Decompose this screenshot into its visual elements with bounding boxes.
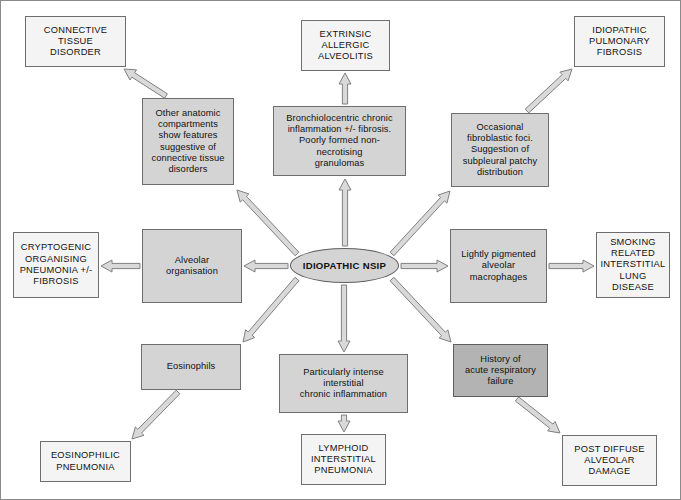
feature-node-acute-respiratory-failure[interactable]: History of acute respiratory failure (453, 344, 548, 397)
outcome-node-smoking-related-interstitial-lung-disease[interactable]: SMOKING RELATED INTERSTITIAL LUNG DISEAS… (596, 232, 670, 298)
feature-node-fibroblastic-foci[interactable]: Occasional fibroblastic foci. Suggestion… (451, 113, 549, 187)
arrow-bronchiolocentric-to-eaa (339, 73, 351, 104)
arrow-hub-to-intense-inflammation (338, 285, 350, 352)
feature-node-bronchiolocentric-inflammation[interactable]: Bronchiolocentric chronic inflammation +… (273, 106, 406, 176)
acute-respiratory-failure-label: History of acute respiratory failure (462, 354, 539, 388)
outcome-node-connective-tissue-disorder[interactable]: CONNECTIVE TISSUE DISORDER (25, 16, 126, 67)
hub-node-idiopathic-nsip[interactable]: IDIOPATHIC NSIP (290, 248, 399, 283)
arrow-hub-to-eosinophils (243, 277, 299, 342)
arrow-fibroblastic-foci-to-ipf (525, 69, 572, 113)
feature-node-intense-interstitial-inflammation[interactable]: Particularly intense interstitial chroni… (279, 354, 408, 413)
arrow-hub-to-fibroblastic-foci (390, 191, 450, 256)
outcome-node-post-diffuse-alveolar-damage[interactable]: POST DIFFUSE ALVEOLAR DAMAGE (562, 435, 657, 486)
lymphoid-interstitial-pneumonia-label: LYMPHOID INTERSTITIAL PNEUMONIA (308, 443, 379, 477)
outcome-node-extrinsic-allergic-alveolitis[interactable]: EXTRINSIC ALLERGIC ALVEOLITIS (301, 20, 390, 71)
feature-node-eosinophils[interactable]: Eosinophils (141, 344, 241, 390)
smoking-related-interstitial-lung-disease-label: SMOKING RELATED INTERSTITIAL LUNG DISEAS… (597, 237, 669, 294)
outcome-node-cryptogenic-organising-pneumonia[interactable]: CRYPTOGENIC ORGANISING PNEUMONIA +/- FIB… (13, 232, 99, 298)
arrow-hub-to-macrophages (401, 260, 448, 272)
fibroblastic-foci-label: Occasional fibroblastic foci. Suggestion… (460, 122, 541, 179)
eosinophils-label: Eosinophils (164, 361, 219, 372)
intense-interstitial-inflammation-label: Particularly intense interstitial chroni… (297, 367, 390, 401)
feature-node-alveolar-organisation[interactable]: Alveolar organisation (142, 229, 242, 303)
extrinsic-allergic-alveolitis-label: EXTRINSIC ALLERGIC ALVEOLITIS (315, 29, 376, 63)
arrow-hub-to-alveolar-organisation (244, 260, 288, 272)
arrow-hub-to-bronchiolocentric (339, 179, 351, 246)
arrow-alveolar-organisation-to-cop (101, 260, 140, 272)
arrow-intense-inflammation-to-lip (338, 415, 350, 432)
post-diffuse-alveolar-damage-label: POST DIFFUSE ALVEOLAR DAMAGE (571, 444, 648, 478)
arrow-hub-to-ars-failure (390, 277, 451, 342)
arrow-macrophages-to-srild (549, 260, 594, 272)
cryptogenic-organising-pneumonia-label: CRYPTOGENIC ORGANISING PNEUMONIA +/- FIB… (17, 242, 96, 287)
outcome-node-lymphoid-interstitial-pneumonia[interactable]: LYMPHOID INTERSTITIAL PNEUMONIA (301, 434, 386, 485)
outcome-node-eosinophilic-pneumonia[interactable]: EOSINOPHILIC PNEUMONIA (40, 441, 131, 482)
arrow-hub-to-other-anatomic (237, 190, 299, 256)
idiopathic-pulmonary-fibrosis-label: IDIOPATHIC PULMONARY FIBROSIS (586, 25, 653, 59)
connective-tissue-disorder-label: CONNECTIVE TISSUE DISORDER (41, 25, 110, 59)
arrow-eosinophils-to-eosinophilic-pneumonia (132, 390, 180, 439)
feature-node-other-anatomic-compartments[interactable]: Other anatomic compartments show feature… (142, 98, 234, 185)
eosinophilic-pneumonia-label: EOSINOPHILIC PNEUMONIA (48, 450, 123, 473)
arrow-other-anatomic-to-ctd (124, 69, 167, 98)
outcome-node-idiopathic-pulmonary-fibrosis[interactable]: IDIOPATHIC PULMONARY FIBROSIS (574, 16, 665, 67)
feature-node-lightly-pigmented-macrophages[interactable]: Lightly pigmented alveolar macrophages (450, 229, 547, 303)
diagram-canvas: IDIOPATHIC NSIP Other anatomic compartme… (0, 0, 681, 500)
lightly-pigmented-macrophages-label: Lightly pigmented alveolar macrophages (458, 249, 539, 283)
hub-label: IDIOPATHIC NSIP (300, 260, 390, 272)
other-anatomic-compartments-label: Other anatomic compartments show feature… (148, 108, 227, 176)
arrow-ars-failure-to-post-dad (515, 397, 560, 433)
bronchiolocentric-inflammation-label: Bronchiolocentric chronic inflammation +… (274, 113, 405, 170)
alveolar-organisation-label: Alveolar organisation (163, 255, 221, 278)
